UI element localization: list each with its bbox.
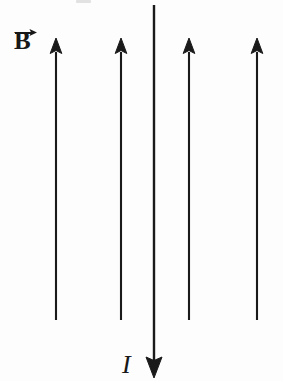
b-field-arrow-4 <box>251 38 263 320</box>
current-arrow-down <box>146 5 162 378</box>
current-label-text: I <box>122 352 131 378</box>
b-field-arrow-3 <box>183 38 195 320</box>
b-field-arrow-2 <box>115 38 127 320</box>
vector-arrow-icon <box>14 28 38 36</box>
b-field-label: B <box>14 28 31 53</box>
b-field-arrow-1 <box>50 38 62 320</box>
diagram-canvas <box>0 0 283 381</box>
physics-field-diagram: B I <box>0 0 283 381</box>
